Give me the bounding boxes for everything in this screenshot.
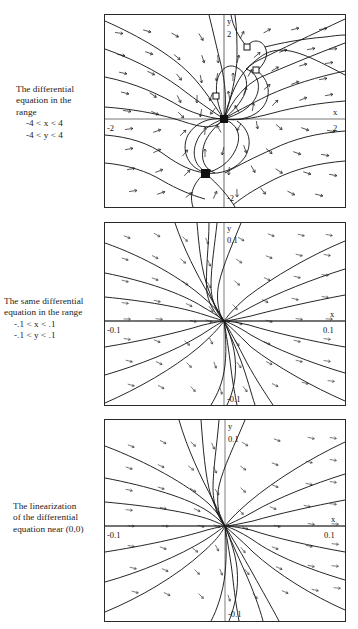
panel-2-canvas: y 0.1 -0.1 x 0.1 -0.1: [105, 223, 345, 405]
axes-group: [105, 223, 345, 405]
caption-line: The same differential: [4, 296, 108, 307]
trajectory-curves: [105, 15, 345, 207]
equilibrium-point-open: [213, 93, 219, 99]
x-axis-label: x: [330, 309, 335, 319]
y-tick-top-label: 2: [227, 29, 231, 39]
y-tick-bottom-label: -0.1: [227, 394, 240, 404]
panel-linearization: y 0.1 -0.1 x 0.1 -0.1: [104, 419, 346, 622]
axis-labels: y 0.1 -0.1 x 0.1 -0.1: [107, 223, 335, 404]
x-axis-label: x: [331, 514, 336, 524]
x-tick-right-label: 0.1: [323, 325, 334, 335]
x-tick-left-label: -0.1: [107, 325, 120, 335]
caption-line: equation near (0,0): [13, 524, 109, 535]
y-tick-bottom-label: -0.1: [228, 609, 241, 619]
y-axis-label: y: [227, 223, 232, 233]
equilibrium-point-filled: [201, 169, 210, 178]
x-axis-label: x: [333, 107, 338, 117]
caption-range: -.1 < y < .1: [4, 330, 108, 341]
caption-panel-3: The linearization of the differential eq…: [13, 501, 109, 535]
x-tick-right-label: 2: [333, 123, 337, 133]
x-tick-left-label: -0.1: [107, 530, 120, 540]
x-tick-left-label: -2: [107, 123, 114, 133]
equilibrium-point-filled: [220, 115, 228, 123]
x-tick-right-label: 0.1: [324, 530, 335, 540]
caption-line: range: [16, 107, 104, 118]
y-tick-bottom-label: -2: [227, 193, 234, 203]
figure-root: The differential equation in the range -…: [0, 0, 358, 629]
y-axis-label: y: [228, 421, 233, 431]
axes-group: [105, 420, 345, 621]
panel-phase-portrait-wide: y 2 -2 x 2 -2: [104, 14, 346, 208]
panel-phase-portrait-zoom: y 0.1 -0.1 x 0.1 -0.1: [104, 222, 346, 406]
y-tick-top-label: 0.1: [227, 235, 238, 245]
axis-labels: y 2 -2 x 2 -2: [107, 16, 338, 203]
caption-range: -4 < y < 4: [16, 130, 104, 141]
caption-range: -.1 < x < .1: [4, 319, 108, 330]
equilibrium-point-open: [253, 67, 259, 73]
caption-line: equation in the: [16, 95, 104, 106]
panel-3-canvas: y 0.1 -0.1 x 0.1 -0.1: [105, 420, 345, 621]
equilibrium-point-open: [244, 44, 250, 50]
caption-line: The differential: [16, 84, 104, 95]
caption-panel-2: The same differential equation in the ra…: [4, 296, 108, 342]
y-tick-top-label: 0.1: [228, 434, 239, 444]
caption-line: of the differential: [13, 512, 109, 523]
caption-panel-1: The differential equation in the range -…: [16, 84, 104, 141]
caption-line: equation in the range: [4, 307, 108, 318]
panel-1-canvas: y 2 -2 x 2 -2: [105, 15, 345, 207]
caption-line: The linearization: [13, 501, 109, 512]
trajectory-curves: [105, 223, 345, 405]
caption-range: -4 < x < 4: [16, 118, 104, 129]
